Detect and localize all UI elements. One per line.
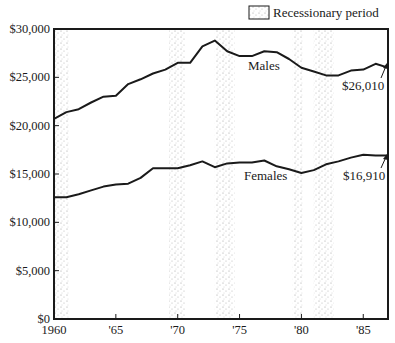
income-chart: Recessionary period $0$5,000$10,000$15,0… (0, 0, 395, 343)
x-tick-label: '65 (108, 323, 123, 337)
y-tick-label: $25,000 (9, 70, 50, 84)
y-tick-label: $5,000 (16, 264, 50, 278)
x-tick-label: '80 (294, 323, 309, 337)
y-tick-label: $20,000 (9, 119, 50, 133)
females-label: Females (244, 168, 287, 183)
legend: Recessionary period (249, 5, 379, 20)
legend-swatch (249, 6, 269, 19)
females-end-value: $16,910 (343, 168, 385, 183)
y-tick-label: $10,000 (9, 215, 50, 229)
recession-band (169, 29, 185, 319)
x-tick-label: '75 (232, 323, 247, 337)
y-tick-label: $30,000 (9, 22, 50, 36)
legend-label: Recessionary period (273, 5, 379, 20)
y-axis: $0$5,000$10,000$15,000$20,000$25,000$30,… (9, 22, 59, 326)
males-end-value: $26,010 (342, 78, 384, 93)
y-tick-label: $15,000 (9, 167, 50, 181)
recession-bands (54, 29, 334, 319)
males-label: Males (248, 58, 280, 73)
x-tick-label: '85 (356, 323, 371, 337)
recession-band (215, 29, 235, 319)
recession-band (293, 29, 303, 319)
x-tick-label: '70 (170, 323, 185, 337)
x-tick-label: 1960 (42, 323, 67, 337)
